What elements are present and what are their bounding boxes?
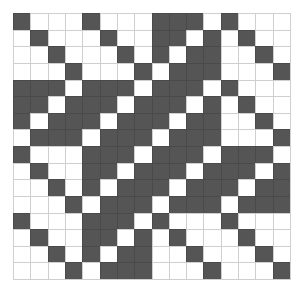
grid-cell: [82, 262, 99, 279]
grid-cell: [255, 96, 272, 113]
grid-cell: [255, 46, 272, 63]
grid-cell: [48, 129, 65, 146]
grid-cell: [117, 113, 134, 130]
grid-cell: [255, 229, 272, 246]
grid-cell: [221, 80, 238, 97]
grid-cell: [203, 196, 220, 213]
grid-cell: [13, 46, 30, 63]
grid-cell: [152, 213, 169, 230]
grid-cell: [186, 262, 203, 279]
grid-cell: [134, 146, 151, 163]
grid-cell: [134, 63, 151, 80]
grid-cell: [186, 96, 203, 113]
grid-cell: [30, 246, 47, 263]
grid-cell: [238, 246, 255, 263]
grid-cell: [203, 229, 220, 246]
grid-cell: [30, 96, 47, 113]
grid-cell: [117, 13, 134, 30]
grid-cell: [152, 163, 169, 180]
grid-cell: [48, 262, 65, 279]
grid-cell: [221, 213, 238, 230]
grid-cell: [273, 246, 290, 263]
grid-cell: [134, 96, 151, 113]
grid-cell: [152, 113, 169, 130]
grid-cell: [117, 196, 134, 213]
grid-cell: [65, 262, 82, 279]
grid-cell: [100, 30, 117, 47]
grid-cell: [13, 213, 30, 230]
grid-cell: [238, 146, 255, 163]
grid-cell: [30, 163, 47, 180]
grid-cell: [169, 13, 186, 30]
grid-cell: [238, 129, 255, 146]
grid-cell: [255, 196, 272, 213]
grid-cell: [117, 46, 134, 63]
grid-cell: [238, 179, 255, 196]
grid-cell: [238, 196, 255, 213]
grid-cell: [134, 13, 151, 30]
grid-cell: [48, 13, 65, 30]
grid-cell: [117, 129, 134, 146]
grid-cell: [238, 80, 255, 97]
grid-cell: [169, 246, 186, 263]
grid-cell: [100, 113, 117, 130]
grid-cell: [255, 213, 272, 230]
grid-cell: [65, 113, 82, 130]
grid-cell: [255, 146, 272, 163]
grid-cell: [273, 113, 290, 130]
grid-cell: [238, 113, 255, 130]
grid-cell: [221, 229, 238, 246]
grid-cell: [169, 229, 186, 246]
grid-cell: [100, 163, 117, 180]
grid-cell: [65, 246, 82, 263]
grid-cell: [100, 13, 117, 30]
grid-cell: [186, 63, 203, 80]
grid-cell: [30, 146, 47, 163]
grid-cell: [65, 229, 82, 246]
grid-cell: [134, 30, 151, 47]
grid-cell: [273, 46, 290, 63]
grid-cell: [203, 96, 220, 113]
grid-cell: [273, 13, 290, 30]
grid-cell: [82, 80, 99, 97]
grid-cell: [255, 129, 272, 146]
grid-cell: [203, 113, 220, 130]
grid-cell: [273, 30, 290, 47]
grid-cell: [169, 196, 186, 213]
grid-cell: [186, 246, 203, 263]
grid-cell: [186, 113, 203, 130]
grid-cell: [238, 229, 255, 246]
grid-cell: [255, 13, 272, 30]
grid-cell: [48, 30, 65, 47]
grid-cell: [238, 13, 255, 30]
grid-cell: [117, 179, 134, 196]
grid-cell: [13, 113, 30, 130]
grid-cell: [273, 146, 290, 163]
grid-cell: [30, 80, 47, 97]
grid-cell: [238, 262, 255, 279]
grid-cell: [203, 146, 220, 163]
grid-cell: [117, 246, 134, 263]
grid-cell: [13, 96, 30, 113]
grid-cell: [30, 262, 47, 279]
grid-cell: [203, 30, 220, 47]
grid-cell: [203, 129, 220, 146]
grid-cell: [203, 213, 220, 230]
grid-cell: [13, 246, 30, 263]
grid-cell: [30, 46, 47, 63]
grid-cell: [221, 63, 238, 80]
grid-cell: [255, 80, 272, 97]
grid-cell: [82, 229, 99, 246]
grid-cell: [65, 30, 82, 47]
grid-cell: [169, 146, 186, 163]
grid-cell: [82, 163, 99, 180]
grid-cell: [273, 229, 290, 246]
grid-cell: [186, 80, 203, 97]
grid-cell: [273, 163, 290, 180]
grid-cell: [203, 13, 220, 30]
grid-cell: [255, 179, 272, 196]
grid-cell: [221, 129, 238, 146]
grid-cell: [30, 213, 47, 230]
grid-cell: [100, 213, 117, 230]
grid-cell: [186, 229, 203, 246]
